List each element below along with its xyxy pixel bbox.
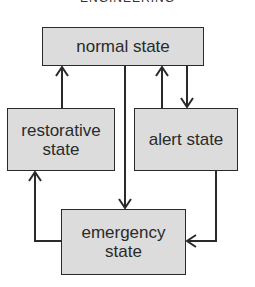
node-normal-state: normal state: [42, 27, 204, 66]
edge-emergency-restorative: [35, 173, 61, 241]
node-alert-state: alert state: [134, 108, 238, 171]
node-restorative-state: restorative state: [7, 108, 115, 171]
node-label: emergency state: [74, 223, 174, 261]
edge-alert-emergency: [188, 171, 216, 241]
node-label: restorative state: [16, 121, 106, 159]
node-label: normal state: [76, 37, 170, 56]
node-emergency-state: emergency state: [61, 209, 186, 275]
node-label: alert state: [149, 130, 224, 149]
